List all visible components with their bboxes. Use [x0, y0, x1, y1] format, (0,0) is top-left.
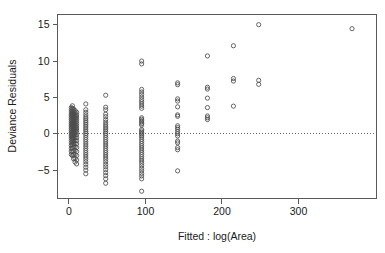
- x-tick-label: 300: [290, 205, 308, 217]
- y-tick-label: 10: [38, 55, 50, 67]
- y-tick-label: −5: [38, 164, 50, 176]
- data-point: [205, 105, 209, 109]
- data-point: [176, 169, 180, 173]
- y-tick-label: 0: [44, 127, 50, 139]
- data-point: [176, 105, 180, 109]
- y-axis-title: Deviance Residuals: [6, 60, 18, 153]
- x-tick-label: 0: [66, 205, 72, 217]
- chart-canvas: −5051015 0100200300 Fitted : log(Area) D…: [0, 0, 385, 253]
- data-point: [205, 96, 209, 100]
- data-point: [231, 104, 235, 108]
- data-point: [104, 108, 108, 112]
- y-tick-label: 15: [38, 18, 50, 30]
- x-axis-title: Fitted : log(Area): [178, 230, 256, 242]
- data-point: [350, 27, 354, 31]
- data-point: [257, 78, 261, 82]
- data-point: [104, 181, 108, 185]
- x-axis-ticks: [69, 199, 298, 204]
- x-axis-tick-labels: 0100200300: [66, 205, 307, 217]
- data-point: [231, 79, 235, 83]
- data-point: [140, 189, 144, 193]
- data-points-layer: [69, 23, 354, 194]
- data-point: [257, 82, 261, 86]
- data-point: [231, 44, 235, 48]
- data-point: [104, 93, 108, 97]
- y-tick-label: 5: [44, 91, 50, 103]
- data-point: [84, 102, 88, 106]
- data-point: [257, 23, 261, 27]
- scatter-plot-figure: −5051015 0100200300 Fitted : log(Area) D…: [0, 0, 385, 253]
- x-tick-label: 200: [213, 205, 231, 217]
- y-axis-ticks: [53, 25, 58, 170]
- y-axis-tick-labels: −5051015: [38, 18, 50, 175]
- data-point: [140, 177, 144, 181]
- x-tick-label: 100: [137, 205, 155, 217]
- data-point: [205, 54, 209, 58]
- data-point: [140, 62, 144, 66]
